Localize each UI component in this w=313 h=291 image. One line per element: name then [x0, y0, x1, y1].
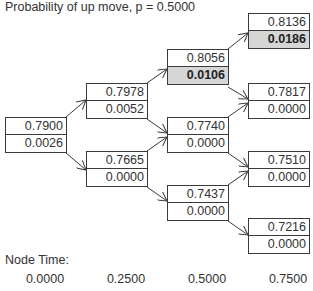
tree-node-1-1: 0.7665 0.0000	[86, 151, 148, 187]
node-secondary-value: 0.0000	[249, 169, 309, 186]
node-value: 0.7817	[249, 84, 309, 101]
edge-up-arrow	[228, 171, 248, 185]
node-secondary-value-highlighted: 0.0186	[249, 31, 309, 48]
node-secondary-value: 0.0000	[168, 135, 228, 152]
node-value: 0.8136	[249, 14, 309, 31]
edge-down-arrow	[228, 87, 248, 99]
edge-up-arrow	[228, 33, 248, 49]
edge-down-arrow	[147, 187, 167, 201]
edge-down-arrow	[66, 153, 86, 170]
edge-down-arrow	[147, 119, 167, 133]
edge-up-arrow	[147, 137, 167, 151]
edge-down-arrow	[228, 153, 248, 167]
node-value: 0.7510	[249, 152, 309, 169]
edge-up-arrow	[147, 69, 167, 83]
edge-down-arrow	[228, 221, 248, 235]
node-value: 0.7665	[87, 152, 147, 169]
node-secondary-value: 0.0000	[249, 101, 309, 118]
tree-node-2-2: 0.7437 0.0000	[167, 185, 229, 221]
edge-up-arrow	[66, 100, 86, 117]
node-value: 0.7978	[87, 84, 147, 101]
tree-node-2-0: 0.8056 0.0106	[167, 49, 229, 85]
node-secondary-value: 0.0000	[168, 203, 228, 220]
node-secondary-value: 0.0052	[87, 101, 147, 118]
node-secondary-value-highlighted: 0.0106	[168, 67, 228, 84]
tree-node-3-0: 0.8136 0.0186	[248, 13, 310, 49]
tree-node-2-1: 0.7740 0.0000	[167, 117, 229, 153]
tree-node-1-0: 0.7978 0.0052	[86, 83, 148, 119]
node-value: 0.8056	[168, 50, 228, 67]
node-value: 0.7740	[168, 118, 228, 135]
node-time-value: 0.5000	[177, 272, 237, 287]
tree-node-3-1: 0.7817 0.0000	[248, 83, 310, 119]
node-time-value: 0.7500	[258, 272, 313, 287]
node-secondary-value: 0.0000	[249, 236, 309, 253]
node-secondary-value: 0.0000	[87, 169, 147, 186]
tree-node-3-3: 0.7216 0.0000	[248, 218, 310, 254]
node-secondary-value: 0.0026	[6, 135, 66, 152]
node-time-value: 0.2500	[96, 272, 156, 287]
node-time-label: Node Time:	[5, 253, 69, 268]
tree-node-0-0: 0.7900 0.0026	[5, 117, 67, 153]
tree-node-3-2: 0.7510 0.0000	[248, 151, 310, 187]
node-time-value: 0.0000	[15, 272, 75, 287]
edge-up-arrow	[228, 103, 248, 117]
node-value: 0.7216	[249, 219, 309, 236]
node-value: 0.7437	[168, 186, 228, 203]
node-value: 0.7900	[6, 118, 66, 135]
